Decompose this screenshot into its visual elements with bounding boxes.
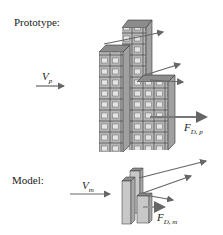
prototype-force-label: FD, p xyxy=(184,121,203,136)
prototype-tower-right xyxy=(137,75,175,150)
model-force-label: FD, m xyxy=(157,211,177,226)
model-velocity-label: Vm xyxy=(82,179,94,194)
prototype-velocity-label: Vp xyxy=(42,70,52,85)
prototype-tower-left xyxy=(99,45,130,152)
buildings-diagram xyxy=(0,0,223,235)
model-block-left xyxy=(122,177,135,224)
